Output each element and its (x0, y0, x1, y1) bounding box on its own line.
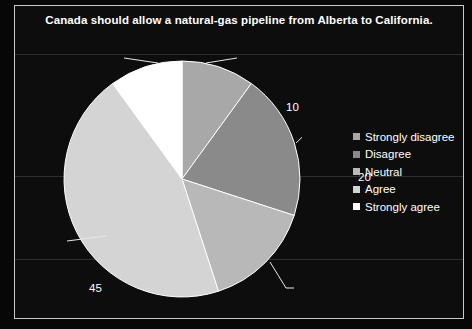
legend-item-agree[interactable]: Agree (353, 181, 464, 199)
pie-slices (64, 61, 300, 297)
legend-swatch-icon (353, 203, 360, 210)
data-label-strongly-agree: 10 (286, 101, 299, 113)
gridline-top (15, 54, 463, 55)
leader-line-disagree (296, 126, 302, 143)
legend-label: Disagree (365, 148, 411, 160)
legend-label: Neutral (365, 166, 402, 178)
legend-item-strongly-agree[interactable]: Strongly agree (353, 198, 464, 216)
leader-line-strongly-agree (206, 58, 237, 63)
legend-label: Strongly disagree (365, 131, 455, 143)
legend-item-strongly-disagree[interactable]: Strongly disagree (353, 128, 464, 146)
legend-item-disagree[interactable]: Disagree (353, 146, 464, 164)
chart-frame: Canada should allow a natural-gas pipeli… (14, 5, 464, 319)
legend-swatch-icon (353, 133, 360, 140)
leader-line-neutral (270, 262, 294, 288)
chart-legend: Strongly disagree Disagree Neutral Agree… (353, 128, 464, 216)
pie-chart-plot: 10 20 15 45 10 (62, 56, 302, 301)
chart-title: Canada should allow a natural-gas pipeli… (15, 14, 463, 26)
legend-item-neutral[interactable]: Neutral (353, 163, 464, 181)
pie-svg (62, 56, 302, 301)
data-label-agree: 45 (89, 282, 102, 294)
leader-line-strongly-disagree (124, 58, 158, 63)
legend-swatch-icon (353, 168, 360, 175)
legend-label: Strongly agree (365, 201, 440, 213)
legend-swatch-icon (353, 151, 360, 158)
legend-swatch-icon (353, 186, 360, 193)
legend-label: Agree (365, 183, 396, 195)
data-label-strongly-disagree: 10 (153, 101, 166, 113)
